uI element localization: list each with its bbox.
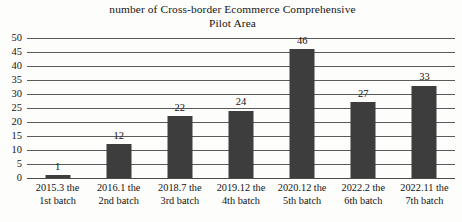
bar[interactable]	[228, 111, 253, 178]
y-tick-label: 10	[12, 145, 23, 156]
gridline-0	[27, 178, 455, 179]
bar[interactable]	[412, 86, 437, 178]
chart-title-line-1: number of Cross-border Ecommerce Compreh…	[60, 3, 405, 17]
x-axis: 2015.3 the1st batch2016.1 the2nd batch20…	[27, 182, 455, 220]
y-tick-label: 20	[12, 117, 23, 128]
x-axis-label-line-2: 7th batch	[388, 195, 461, 208]
bar-slot: 12	[88, 38, 149, 178]
y-tick-label: 45	[12, 47, 23, 58]
bar-value-label: 33	[419, 72, 430, 83]
chart-title: number of Cross-border Ecommerce Compreh…	[60, 3, 405, 30]
y-tick-label: 50	[12, 33, 23, 44]
chart-title-line-2: Pilot Area	[60, 17, 405, 31]
x-axis-label: 2022.11 the7th batch	[388, 182, 461, 207]
y-tick-label: 15	[12, 131, 23, 142]
bar-value-label: 22	[175, 103, 186, 114]
bar-slot: 22	[149, 38, 210, 178]
bar[interactable]	[351, 102, 376, 178]
y-tick-label: 5	[17, 159, 22, 170]
bar-slot: 33	[394, 38, 455, 178]
bar-slot: 46	[272, 38, 333, 178]
bar-chart: number of Cross-border Ecommerce Compreh…	[0, 0, 462, 222]
bar-value-label: 27	[358, 89, 369, 100]
y-tick-label: 35	[12, 75, 23, 86]
y-axis: 05101520253035404550	[0, 38, 24, 178]
bar-slot: 24	[210, 38, 271, 178]
y-tick-label: 25	[12, 103, 23, 114]
bar-value-label: 46	[297, 36, 308, 47]
bar-value-label: 1	[55, 162, 60, 173]
bar-value-label: 24	[236, 97, 247, 108]
bar-slot: 27	[333, 38, 394, 178]
y-tick-label: 30	[12, 89, 23, 100]
bars-layer: 1122224462733	[27, 38, 455, 178]
bar[interactable]	[106, 144, 131, 178]
x-axis-label-line-1: 2022.11 the	[388, 182, 461, 195]
bar[interactable]	[290, 49, 315, 178]
bar[interactable]	[167, 116, 192, 178]
bar[interactable]	[45, 175, 70, 178]
y-tick-label: 40	[12, 61, 23, 72]
bar-value-label: 12	[113, 131, 124, 142]
bar-slot: 1	[27, 38, 88, 178]
